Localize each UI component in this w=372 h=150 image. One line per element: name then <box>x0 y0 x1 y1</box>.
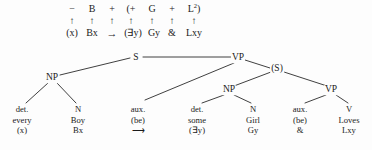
up-arrow-icon-4: ↑ <box>150 16 155 26</box>
edge-np2-det2 <box>202 95 224 103</box>
edge-np2-n2 <box>234 95 251 103</box>
up-arrow-icon-3: ↑ <box>129 16 134 26</box>
leaf-logic: (∃y) <box>188 125 206 136</box>
edge-np1-n1 <box>57 83 76 103</box>
tree-node-vp1: VP <box>231 53 245 63</box>
leaf-det2: det. some (∃y) <box>188 104 206 136</box>
leaf-word: Girl <box>246 115 260 126</box>
formula-upper-3: (+ <box>127 4 136 14</box>
leaf-category: N <box>246 104 260 115</box>
up-arrow-icon-1: ↑ <box>90 16 95 26</box>
long-right-arrow-icon: ⟶ <box>131 125 146 136</box>
up-arrow-icon-6: ↑ <box>192 16 197 26</box>
formula-lower-0: (x) <box>66 28 78 38</box>
leaf-category: aux. <box>293 104 308 115</box>
leaf-word: Loves <box>338 115 359 126</box>
edge-vp2-v1 <box>336 95 348 103</box>
tree-node-vp2: VP <box>324 85 338 95</box>
formula-upper-2: + <box>109 4 115 14</box>
formula-lower-2: → <box>107 28 118 38</box>
tree-node-np2: NP <box>222 85 236 95</box>
edge-np1-s <box>60 58 130 75</box>
leaf-category: N <box>71 104 85 115</box>
edge-s2-vp2 <box>284 72 327 86</box>
leaf-category: det. <box>12 104 31 115</box>
tree-node-s: S <box>132 53 139 63</box>
leaf-v1: V Loves Lxy <box>338 104 359 136</box>
edge-vp1-aux1 <box>145 63 234 100</box>
leaf-n2: N Girl Gy <box>246 104 260 136</box>
diagram-canvas: − B + (+ G + L2) ↑ ↑ ↑ ↑ ↑ ↑ ↑ (x) Bx → … <box>0 0 372 150</box>
formula-upper-6: L2) <box>188 4 201 14</box>
leaf-aux2: aux. (be) & <box>293 104 308 136</box>
formula-upper-5: + <box>169 4 175 14</box>
formula-upper-4: G <box>148 4 155 14</box>
edge-s2-np2 <box>234 72 271 86</box>
formula-lower-4: Gy <box>148 28 160 38</box>
edge-np1-det1 <box>26 83 48 103</box>
leaf-logic: Bx <box>71 125 85 136</box>
edge-vp1-s2 <box>245 60 270 68</box>
leaf-n1: N Boy Bx <box>71 104 85 136</box>
leaf-word: (be) <box>293 115 308 126</box>
leaf-logic: & <box>293 125 308 136</box>
leaf-word: some <box>188 115 206 126</box>
formula-lower-3: (∃y) <box>124 28 142 38</box>
formula-lower-6: Lxy <box>186 28 202 38</box>
formula-lower-1: Bx <box>86 28 98 38</box>
leaf-aux1: aux. (be) ⟶ <box>131 104 146 136</box>
up-arrow-icon-2: ↑ <box>110 16 115 26</box>
leaf-det1: det. every (x) <box>12 104 31 136</box>
edge-vp2-aux2 <box>305 95 326 103</box>
leaf-word: Boy <box>71 115 85 126</box>
leaf-category: V <box>338 104 359 115</box>
leaf-category: aux. <box>131 104 146 115</box>
leaf-logic: Gy <box>246 125 260 136</box>
tree-node-s2: (S) <box>270 64 284 74</box>
formula-lower-5: & <box>168 28 176 38</box>
up-arrow-icon-0: ↑ <box>70 16 75 26</box>
tree-node-np1: NP <box>45 73 59 83</box>
formula-upper-1: B <box>89 4 96 14</box>
leaf-logic: Lxy <box>338 125 359 136</box>
leaf-category: det. <box>188 104 206 115</box>
leaf-word: every <box>12 115 31 126</box>
formula-upper-0: − <box>69 4 75 14</box>
leaf-word: (be) <box>131 115 146 126</box>
up-arrow-icon-5: ↑ <box>170 16 175 26</box>
leaf-logic: (x) <box>12 125 31 136</box>
